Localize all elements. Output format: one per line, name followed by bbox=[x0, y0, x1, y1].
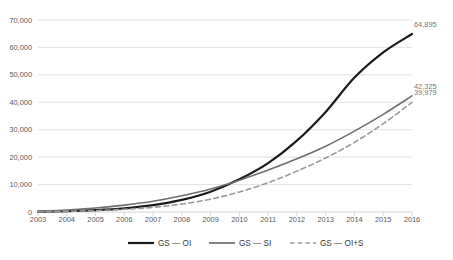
legend-label[interactable]: GS — SI bbox=[239, 239, 271, 248]
y-axis-tick-label: 70,000 bbox=[9, 16, 32, 25]
y-axis-tick-label: 40,000 bbox=[9, 98, 32, 107]
y-axis-tick-label: 30,000 bbox=[9, 125, 32, 134]
x-axis-tick-label: 2007 bbox=[145, 215, 161, 224]
x-axis-tick-label: 2008 bbox=[174, 215, 190, 224]
x-axis-tick-label: 2016 bbox=[404, 215, 420, 224]
endpoint-data-labels: 64,89542,32539,979 bbox=[414, 20, 437, 97]
x-axis-tick-label: 2011 bbox=[260, 215, 276, 224]
line-chart: 010,00020,00030,00040,00050,00060,00070,… bbox=[0, 0, 453, 260]
x-axis-tick-labels: 2003200420052006200720082009201020112012… bbox=[30, 215, 420, 224]
chart-canvas: 010,00020,00030,00040,00050,00060,00070,… bbox=[0, 0, 453, 260]
legend: GS — OIGS — SIGS — OI+S bbox=[128, 239, 364, 248]
series-line bbox=[38, 96, 412, 211]
x-axis-tick-label: 2015 bbox=[375, 215, 391, 224]
legend-label[interactable]: GS — OI+S bbox=[320, 239, 364, 248]
x-axis-tick-label: 2012 bbox=[289, 215, 305, 224]
gridlines-group bbox=[38, 20, 412, 185]
legend-label[interactable]: GS — OI bbox=[158, 239, 191, 248]
x-axis-tick-label: 2010 bbox=[231, 215, 247, 224]
endpoint-data-label: 64,895 bbox=[414, 20, 437, 29]
y-axis-tick-labels: 010,00020,00030,00040,00050,00060,00070,… bbox=[9, 16, 32, 217]
x-axis-tick-label: 2005 bbox=[87, 215, 103, 224]
y-axis-tick-label: 50,000 bbox=[9, 70, 32, 79]
x-axis-tick-label: 2013 bbox=[317, 215, 333, 224]
y-axis-tick-label: 20,000 bbox=[9, 153, 32, 162]
x-axis-tick-label: 2004 bbox=[59, 215, 75, 224]
x-axis-tick-label: 2014 bbox=[346, 215, 362, 224]
x-axis-tick-label: 2003 bbox=[30, 215, 46, 224]
endpoint-data-label: 39,979 bbox=[414, 88, 437, 97]
y-axis-tick-label: 10,000 bbox=[9, 180, 32, 189]
x-axis-tick-label: 2009 bbox=[202, 215, 218, 224]
series-lines-group bbox=[38, 34, 412, 212]
x-axis-tick-label: 2006 bbox=[116, 215, 132, 224]
y-axis-tick-label: 60,000 bbox=[9, 43, 32, 52]
